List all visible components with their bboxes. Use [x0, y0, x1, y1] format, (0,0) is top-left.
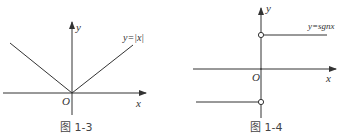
diagram-canvas [0, 0, 341, 138]
abs-right-branch [72, 45, 133, 93]
origin-label: O [62, 96, 70, 107]
figure-caption: 图 1-3 [60, 122, 92, 133]
function-label: y=|x| [123, 33, 144, 43]
x-axis-label: x [136, 98, 141, 109]
x-axis-label: x [326, 73, 331, 84]
function-label: y=sgnx [308, 22, 335, 31]
y-axis-label: y [76, 22, 81, 33]
y-axis-label: y [266, 3, 271, 14]
origin-label: O [252, 72, 260, 83]
abs-left-branch [10, 43, 72, 93]
open-circle-upper [258, 32, 263, 37]
figure-caption: 图 1-4 [250, 122, 282, 133]
open-circle-lower [258, 99, 263, 104]
origin-point [260, 68, 262, 70]
